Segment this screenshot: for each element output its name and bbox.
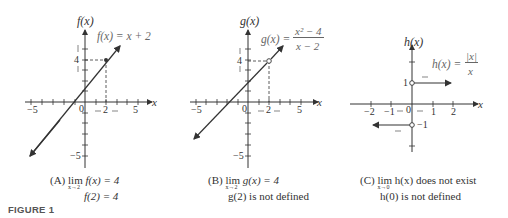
panel-c-formula-lhs: h(x) =: [432, 58, 461, 70]
caption-expression: g(x) = 4: [243, 174, 279, 186]
caption-prefix: (B): [208, 174, 223, 186]
panel-a-y-axis-label: f(x): [77, 14, 94, 29]
panel-b-formula-lhs: g(x) =: [261, 33, 290, 45]
panel-a-x-axis-label: x: [152, 96, 157, 108]
panel-c-origin: 0: [406, 104, 411, 115]
panel-a-formula: f(x) = x + 2: [97, 30, 151, 42]
panel-b-tick-x-5: 5: [297, 104, 302, 115]
panel-b-formula-denominator: x − 2: [296, 40, 319, 52]
panel-c-caption-line1: (C) limx→0 h(x) does not exist: [360, 174, 476, 186]
panel-a-caption-line1: (A) limx→2 f(x) = 4: [50, 174, 119, 186]
caption-prefix: (A): [50, 174, 65, 186]
panel-c-tick-x-1: 1: [431, 106, 436, 117]
panel-a-tick-y-neg5: −5: [70, 150, 81, 161]
panel-b-y-axis-label: g(x): [240, 14, 259, 29]
panel-c-tick-x-neg2: −2: [364, 106, 375, 117]
panel-a-tick-x-neg5: −5: [27, 104, 38, 115]
panel-c-y-axis-label: h(x): [404, 35, 423, 50]
panel-a-origin: 0: [79, 103, 84, 114]
panel-c-formula-numerator: |x|: [465, 50, 478, 63]
panel-b-tick-x-neg5: −5: [191, 104, 202, 115]
caption-expression: f(x) = 4: [85, 174, 119, 186]
panel-b-origin: 0: [242, 103, 247, 114]
panel-b-tick-x-2: 2: [266, 104, 271, 115]
panel-a-tick-y-4: 4: [74, 54, 79, 65]
caption-expression: h(x) does not exist: [395, 174, 477, 186]
panel-b-caption-line2: g(2) is not defined: [228, 190, 309, 202]
panel-c-caption-line2: h(0) is not defined: [380, 190, 461, 202]
panel-a-tick-x-2: 2: [103, 104, 108, 115]
caption-prefix: (C): [360, 174, 375, 186]
panel-a-graph: [25, 30, 152, 168]
panel-c-tick-y-neg1: −1: [417, 119, 428, 130]
panel-c-tick-y-1: 1: [403, 77, 408, 88]
panel-c-formula-denominator: x: [468, 65, 473, 77]
figure-label: FIGURE 1: [8, 204, 54, 215]
panel-b-tick-y-neg5: −5: [233, 150, 244, 161]
lim-subscript: x→2: [68, 184, 80, 190]
panel-c-tick-x-2: 2: [451, 106, 456, 117]
panel-a-tick-x-5: 5: [133, 104, 138, 115]
panel-a-caption-line2: f(2) = 4: [84, 190, 118, 202]
panel-b-caption-line1: (B) limx→2 g(x) = 4: [208, 174, 279, 186]
panel-c-tick-x-neg1: −1: [384, 106, 395, 117]
panel-b-x-axis-label: x: [317, 96, 322, 108]
panel-b-tick-y-4: 4: [237, 55, 242, 66]
panel-c-x-axis-label: x: [478, 98, 483, 110]
panel-b-formula-numerator: x² − 4: [293, 25, 324, 38]
